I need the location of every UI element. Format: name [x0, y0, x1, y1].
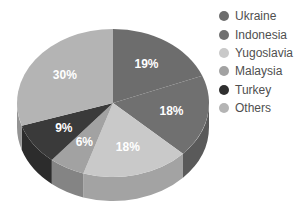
legend-item[interactable]: Turkey: [219, 81, 304, 99]
legend-item[interactable]: Malaysia: [219, 62, 304, 80]
legend-swatch-icon: [219, 11, 229, 21]
legend-item-label: Indonesia: [235, 29, 287, 41]
pie-slice-data-label: 18%: [116, 140, 140, 154]
pie-chart-plot-area: 19%18%18%6%9%30%: [8, 18, 218, 208]
legend-item-label: Ukraine: [235, 10, 276, 22]
legend-swatch-icon: [219, 85, 229, 95]
pie-slice-data-label: 6%: [76, 135, 94, 149]
pie-slice-data-label: 19%: [134, 57, 158, 71]
legend-swatch-icon: [219, 48, 229, 58]
legend-item[interactable]: Yugoslavia: [219, 44, 304, 62]
pie-chart-figure: 19%18%18%6%9%30% UkraineIndonesiaYugosla…: [0, 0, 304, 217]
legend-item[interactable]: Others: [219, 99, 304, 117]
pie-slice-data-label: 18%: [159, 104, 183, 118]
pie-slice-data-label: 30%: [53, 68, 77, 82]
legend-swatch-icon: [219, 66, 229, 76]
legend-swatch-icon: [219, 30, 229, 40]
legend-swatch-icon: [219, 103, 229, 113]
pie-chart-svg: 19%18%18%6%9%30%: [8, 18, 218, 208]
legend-item-label: Turkey: [235, 84, 271, 96]
legend-item[interactable]: Ukraine: [219, 7, 304, 25]
chart-legend: UkraineIndonesiaYugoslaviaMalaysiaTurkey…: [219, 7, 304, 117]
legend-item-label: Malaysia: [235, 65, 282, 77]
legend-item-label: Yugoslavia: [235, 47, 293, 59]
legend-item[interactable]: Indonesia: [219, 25, 304, 43]
legend-item-label: Others: [235, 102, 271, 114]
pie-slice-data-label: 9%: [55, 121, 73, 135]
